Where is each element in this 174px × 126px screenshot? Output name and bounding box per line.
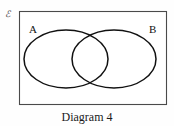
- figure-caption: Diagram 4: [62, 110, 113, 124]
- venn-diagram-canvas: ℰ A B Diagram 4: [0, 0, 174, 126]
- universal-set-symbol: ℰ: [5, 9, 12, 19]
- set-b-label: B: [149, 23, 156, 35]
- set-a-label: A: [29, 23, 37, 35]
- venn-diagram-figure: ℰ A B Diagram 4: [0, 0, 174, 126]
- universal-set-rectangle: [20, 12, 167, 105]
